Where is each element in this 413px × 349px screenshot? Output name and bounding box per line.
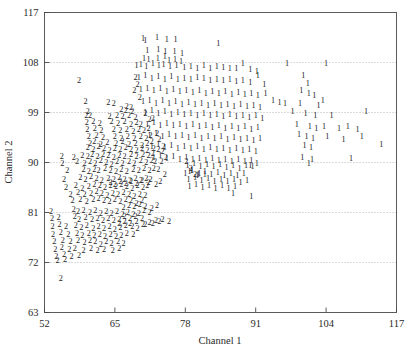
data-point: 1 [215, 75, 219, 84]
plot-canvas: 1111111111111111111111111111111111111111… [0, 0, 413, 349]
data-point: 1 [220, 181, 224, 190]
data-point: 1 [197, 122, 201, 131]
data-point: 1 [248, 161, 252, 170]
data-point: 1 [295, 120, 299, 129]
data-point: 1 [247, 113, 251, 122]
data-point: 1 [174, 132, 178, 141]
data-point: 1 [238, 100, 242, 109]
y-axis-title: Channel 2 [3, 141, 14, 184]
data-point: 2 [78, 195, 82, 204]
data-point: 1 [228, 75, 232, 84]
data-point: 1 [254, 111, 258, 120]
data-point: 2 [163, 170, 167, 179]
data-point: 1 [139, 60, 143, 69]
data-point: 1 [258, 103, 262, 112]
data-point: 1 [307, 159, 311, 168]
data-point: 1 [187, 133, 191, 142]
data-point: 1 [195, 64, 199, 73]
data-point: 1 [249, 125, 253, 134]
data-point: 2 [86, 143, 90, 152]
x-axis-title: Channel 1 [199, 335, 242, 346]
data-point: 2 [142, 164, 146, 173]
data-point: 1 [182, 74, 186, 83]
data-point: 1 [161, 96, 165, 105]
data-point: 2 [135, 146, 139, 155]
y-tick-label: 117 [23, 7, 38, 18]
data-point: 1 [243, 122, 247, 131]
data-point: 1 [249, 192, 253, 201]
x-tick-label: 117 [389, 318, 404, 329]
y-tick-label: 63 [28, 307, 39, 318]
data-point: 1 [171, 121, 175, 130]
data-point: 2 [85, 197, 89, 206]
x-tick-label: 91 [250, 318, 261, 329]
data-point: 1 [169, 110, 173, 119]
data-point: 1 [168, 62, 172, 71]
data-point: 2 [140, 144, 144, 153]
data-point: 1 [245, 102, 249, 111]
data-point: 1 [208, 111, 212, 120]
data-point: 1 [165, 35, 169, 44]
data-point: 1 [329, 111, 333, 120]
data-point: 1 [236, 124, 240, 133]
data-point: 1 [143, 36, 147, 45]
data-point: 2 [151, 114, 155, 123]
data-point: 2 [162, 142, 166, 151]
data-point: 1 [197, 86, 201, 95]
data-point: 1 [228, 110, 232, 119]
data-point: 1 [201, 183, 205, 192]
data-point: 1 [223, 124, 227, 133]
data-point: 1 [228, 146, 232, 155]
data-point: 1 [245, 176, 249, 185]
data-point: 1 [234, 144, 238, 153]
data-point: 1 [152, 86, 156, 95]
data-point: 1 [349, 154, 353, 163]
data-point: 2 [109, 230, 113, 239]
data-point: 1 [248, 78, 252, 87]
data-point: 2 [75, 157, 79, 166]
data-point: 1 [216, 39, 220, 48]
data-point: 1 [255, 159, 259, 168]
data-point: 1 [238, 135, 242, 144]
data-point: 1 [313, 111, 317, 120]
data-point: 2 [78, 173, 82, 182]
data-point: 2 [128, 219, 132, 228]
data-point: 1 [191, 120, 195, 129]
data-point: 2 [118, 177, 122, 186]
data-point: 2 [107, 146, 111, 155]
data-point: 1 [271, 96, 275, 105]
data-point: 1 [176, 144, 180, 153]
data-point: 2 [148, 218, 152, 227]
data-point: 2 [150, 204, 154, 213]
data-point: 1 [302, 141, 306, 150]
data-point: 2 [59, 274, 63, 283]
data-point: 1 [203, 170, 207, 179]
data-point: 1 [232, 102, 236, 111]
data-point: 2 [129, 177, 133, 186]
data-point: 2 [131, 230, 135, 239]
data-point: 1 [300, 153, 304, 162]
data-point: 2 [146, 178, 150, 187]
data-point: 1 [188, 182, 192, 191]
data-point: 1 [305, 132, 309, 141]
data-point: 1 [195, 73, 199, 82]
data-point: 2 [113, 144, 117, 153]
data-point: 1 [234, 112, 238, 121]
data-point: 1 [324, 59, 328, 68]
data-point: 1 [231, 189, 235, 198]
y-tick-label: 108 [23, 57, 39, 68]
data-point: 2 [111, 246, 115, 255]
data-point: 1 [221, 63, 225, 72]
data-point: 1 [256, 123, 260, 132]
data-point: 1 [202, 74, 206, 83]
data-point: 1 [215, 110, 219, 119]
data-point: 1 [156, 109, 160, 118]
data-point: 2 [102, 196, 106, 205]
data-point: 1 [174, 97, 178, 106]
x-tick-label: 78 [180, 318, 191, 329]
data-point: 1 [241, 59, 245, 68]
data-point: 1 [145, 84, 149, 93]
data-point: 2 [124, 179, 128, 188]
data-point: 1 [215, 62, 219, 71]
data-point: 2 [113, 195, 117, 204]
